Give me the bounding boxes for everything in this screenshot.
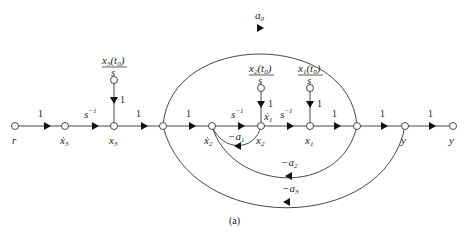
gain-a0: a0 — [255, 9, 265, 23]
gain-r-x3dot: 1 — [38, 108, 43, 119]
node-y-out — [450, 123, 457, 130]
gain-a1: −a1 — [228, 130, 244, 144]
ic-label-x2: x2(t0) s — [248, 62, 274, 86]
svg-text:s: s — [111, 66, 115, 78]
label-y-out: y — [448, 134, 454, 146]
ic-gain-x1: 1 — [317, 98, 322, 109]
ic-label-x1: x1(t0) s — [297, 62, 323, 86]
gain-a3: −a3 — [282, 182, 299, 196]
gain-x2dot-x1dot: s−1 — [231, 107, 244, 120]
label-r: r — [12, 134, 17, 146]
gain-x3dot-x3: s−1 — [84, 107, 97, 120]
arrow-icon — [381, 122, 388, 130]
figure-caption: (a) — [229, 215, 240, 227]
label-x3: x3 — [108, 134, 118, 148]
node-n4 — [160, 123, 167, 130]
label-x2: x2 — [255, 134, 265, 148]
node-x3 — [111, 123, 118, 130]
node-x1 — [307, 123, 314, 130]
arrow-icon — [238, 122, 245, 130]
gain-x3-n4: 1 — [136, 108, 141, 119]
arrow-icon — [44, 122, 51, 130]
arrow-icon — [141, 122, 148, 130]
arrow-icon — [257, 101, 265, 108]
node-x3dot — [62, 123, 69, 130]
ic-gain-x2: 1 — [268, 98, 273, 109]
arrow-icon — [306, 101, 314, 108]
arrow-icon — [110, 97, 118, 104]
arrow-icon — [234, 142, 241, 150]
label-x1dot: ẋ1 — [263, 110, 272, 124]
label-x1: x1 — [304, 134, 313, 148]
svg-text:s: s — [258, 74, 262, 86]
label-x2dot: ẋ2 — [203, 134, 213, 148]
gain-x1-n7: 1 — [332, 108, 337, 119]
label-y-mid: y — [400, 134, 406, 146]
gain-ymid-yout: 1 — [428, 108, 433, 119]
arrow-icon — [285, 172, 292, 180]
arrow-icon — [283, 198, 290, 206]
ic-label-x3: x3(t0) s — [101, 54, 127, 78]
gain-a2: −a2 — [281, 156, 298, 170]
arrow-icon — [92, 122, 99, 130]
arrow-icon — [257, 24, 264, 32]
signal-flow-graph: 1 s−1 1 1 s−1 s−1 1 1 1 1 x3(t0) s 1 x2(… — [0, 0, 470, 241]
arrow-icon — [334, 122, 341, 130]
node-x1dot-x2 — [258, 123, 265, 130]
node-r — [12, 123, 19, 130]
arrow-icon — [429, 122, 436, 130]
gain-x1dot-x1: s−1 — [280, 107, 293, 120]
gain-n7-ymid: 1 — [380, 108, 385, 119]
arrow-icon — [189, 122, 196, 130]
gain-n4-x2dot: 1 — [186, 108, 191, 119]
arrow-icon — [287, 122, 294, 130]
node-y-mid — [402, 123, 409, 130]
node-n7 — [354, 123, 361, 130]
ic-gain-x3: 1 — [120, 94, 125, 105]
node-x2dot — [209, 123, 216, 130]
label-x3dot: ẋ3 — [59, 134, 69, 148]
svg-text:s: s — [307, 74, 311, 86]
